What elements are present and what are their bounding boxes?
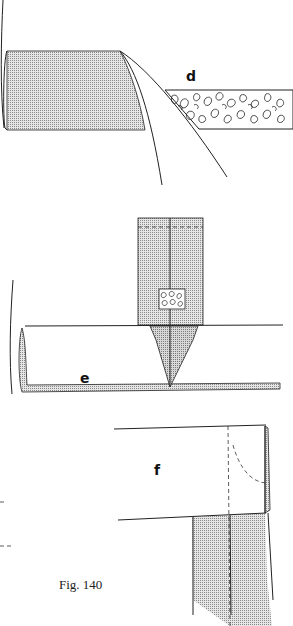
panel-f-shaded-strip	[192, 513, 272, 626]
panel-e-pointed-tip	[150, 326, 198, 387]
panel-d-padding-strip	[165, 90, 293, 129]
panel-f-right-edge	[265, 426, 270, 513]
figure-caption: Fig. 140	[59, 577, 102, 592]
panel-d: d	[1, 0, 293, 185]
panel-f-strip-right	[268, 513, 273, 600]
panel-d-label: d	[186, 68, 196, 84]
panel-d-shaded-fabric	[7, 51, 145, 130]
panel-f: f	[0, 425, 273, 626]
panel-d-fold	[4, 51, 7, 130]
panel-f-label: f	[154, 462, 161, 478]
panel-e-left-line	[10, 280, 13, 394]
panel-e-rolled-edge	[19, 328, 280, 392]
figure-canvas: d e f Fig. 140	[0, 0, 293, 626]
panel-f-curved-stitch	[233, 445, 266, 483]
panel-e: e	[10, 218, 283, 394]
panel-f-top-edge	[114, 425, 266, 429]
panel-e-label: e	[80, 370, 90, 386]
